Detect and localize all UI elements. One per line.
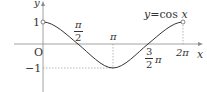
x-axis-label: x [197,49,203,60]
pi-half-denominator: 2 [74,32,83,43]
y-axis-label: y [34,0,40,8]
origin-label: O [34,47,43,58]
x-axis-arrow [198,42,203,46]
x-tick-two-pi: 2π [176,48,189,58]
y-tick-one: 1 [33,17,40,28]
three-half-denominator: 2 [145,59,153,70]
x-tick-three-half-pi: π [155,55,162,65]
x-tick-three-half-fraction: 3 2 [145,47,153,70]
x-tick-pi: π [110,32,117,42]
x-tick-pi-half: π 2 [74,20,83,43]
pi-half-numerator: π [74,20,83,32]
y-axis-arrow [41,1,45,6]
function-label-x: x [181,8,187,21]
three-half-numerator: 3 [145,47,153,59]
open-endpoint-start [41,20,45,24]
function-label-eq: =cos [150,8,178,21]
y-tick-minus-one: −1 [25,63,41,74]
function-label: y=cos x [144,9,188,20]
